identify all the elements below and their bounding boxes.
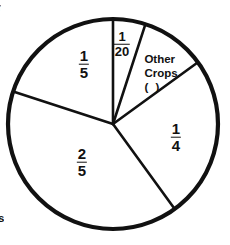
fraction-denominator: 20 — [114, 44, 130, 59]
slice-label-one-quarter: 1 4 — [171, 121, 181, 154]
slice-label-two-fifths: 2 5 — [77, 146, 87, 179]
cropped-text-fragment-bottom-left: s — [0, 213, 4, 225]
fraction-numerator: 1 — [171, 121, 181, 136]
fraction-numerator: 2 — [77, 146, 87, 161]
fraction-numerator: 1 — [79, 48, 89, 63]
other-crops-line-2: Crops — [144, 67, 177, 79]
slice-label-other-crops: Other Crops ( ) — [144, 52, 177, 94]
fraction-denominator: 5 — [77, 162, 87, 179]
other-crops-line-1: Other — [144, 53, 175, 65]
fraction-numerator: 1 — [117, 30, 126, 43]
slice-label-one-fifth: 1 5 — [79, 48, 89, 81]
slice-label-one-twentieth: 1 20 — [114, 30, 130, 59]
pie-chart-figure: 1 20 Other Crops ( ) 1 4 2 5 1 5 r s — [0, 0, 230, 245]
fraction-denominator: 4 — [171, 137, 181, 154]
other-crops-answer-blank: ( ) — [144, 80, 177, 94]
fraction-denominator: 5 — [79, 64, 89, 81]
cropped-text-fragment-top-left: r — [0, 2, 1, 14]
